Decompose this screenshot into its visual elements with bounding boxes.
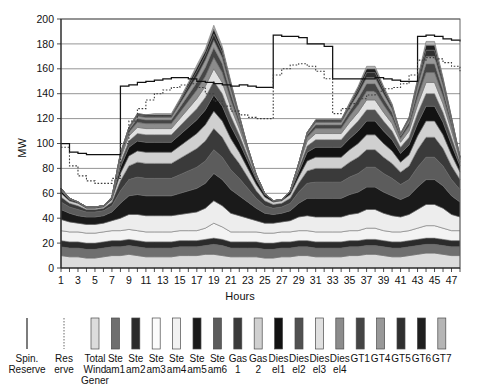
legend-item: Gas2 bbox=[249, 318, 267, 375]
legend-color-swatch bbox=[397, 318, 405, 349]
legend-label: GT5 bbox=[391, 353, 411, 364]
legend-color-swatch bbox=[438, 318, 446, 349]
legend-item: Steam1 bbox=[106, 318, 126, 375]
x-tick-label: 29 bbox=[293, 274, 305, 286]
legend-color-swatch bbox=[193, 318, 201, 349]
x-tick-label: 13 bbox=[157, 274, 169, 286]
y-tick-label: 140 bbox=[36, 87, 54, 99]
legend-item: Diesel1 bbox=[269, 318, 289, 375]
legend-item: Steam6 bbox=[208, 318, 228, 375]
legend-label: Ste bbox=[189, 353, 204, 364]
y-tick-label: 200 bbox=[36, 13, 54, 25]
legend-color-swatch bbox=[132, 318, 140, 349]
legend-label: Dies bbox=[330, 353, 350, 364]
legend-label: Dies bbox=[289, 353, 309, 364]
x-tick-label: 45 bbox=[429, 274, 441, 286]
x-tick-label: 43 bbox=[412, 274, 424, 286]
x-tick-label: 33 bbox=[327, 274, 339, 286]
legend-label: am3 bbox=[146, 364, 166, 375]
legend-color-swatch bbox=[173, 318, 181, 349]
legend-item: Steam3 bbox=[146, 318, 166, 375]
legend-label: Wind bbox=[84, 364, 107, 375]
x-axis-ticks: 1357911131517192123252729313335373941434… bbox=[58, 268, 460, 286]
legend-item: Spin.Reserve bbox=[8, 318, 46, 375]
legend-label: Dies bbox=[309, 353, 329, 364]
legend-label: el3 bbox=[313, 364, 327, 375]
x-tick-label: 23 bbox=[242, 274, 254, 286]
legend-item: Reserve bbox=[54, 318, 74, 375]
x-tick-label: 35 bbox=[344, 274, 356, 286]
legend-label: erve bbox=[54, 364, 74, 375]
legend-item: Diesel4 bbox=[330, 318, 350, 375]
legend-label: 2 bbox=[255, 364, 261, 375]
y-tick-label: 180 bbox=[36, 38, 54, 50]
x-tick-label: 37 bbox=[361, 274, 373, 286]
y-tick-label: 60 bbox=[42, 187, 54, 199]
x-tick-label: 25 bbox=[259, 274, 271, 286]
stacked-area-chart-figure: 020406080100120140160180200 135791113151… bbox=[0, 0, 481, 392]
legend-label: el4 bbox=[333, 364, 347, 375]
legend-color-swatch bbox=[213, 318, 221, 349]
legend-item: GT6 bbox=[412, 318, 432, 364]
y-tick-label: 120 bbox=[36, 112, 54, 124]
legend-label: am6 bbox=[208, 364, 228, 375]
legend-label: Spin. bbox=[16, 353, 39, 364]
y-tick-label: 40 bbox=[42, 212, 54, 224]
legend-label: GT7 bbox=[432, 353, 452, 364]
legend-color-swatch bbox=[417, 318, 425, 349]
legend-item: Steam2 bbox=[126, 318, 146, 375]
legend-label: Total bbox=[84, 353, 105, 364]
legend-color-swatch bbox=[234, 318, 242, 349]
x-tick-label: 15 bbox=[174, 274, 186, 286]
legend-color-swatch bbox=[152, 318, 160, 349]
legend-label: am5 bbox=[187, 364, 207, 375]
chart-legend: Spin.ReserveReserveTotalWindGenerSteam1S… bbox=[8, 318, 452, 386]
x-tick-label: 21 bbox=[225, 274, 237, 286]
x-tick-label: 1 bbox=[58, 274, 64, 286]
y-tick-label: 0 bbox=[48, 262, 54, 274]
legend-item: GT5 bbox=[391, 318, 411, 364]
legend-color-swatch bbox=[111, 318, 119, 349]
legend-label: GT6 bbox=[412, 353, 432, 364]
x-tick-label: 39 bbox=[378, 274, 390, 286]
x-tick-label: 11 bbox=[140, 274, 151, 286]
y-tick-label: 160 bbox=[36, 62, 54, 74]
legend-color-swatch bbox=[315, 318, 323, 349]
legend-item: GT4 bbox=[371, 318, 391, 364]
legend-label: Gener bbox=[81, 375, 109, 386]
x-tick-label: 17 bbox=[191, 274, 203, 286]
x-tick-label: 31 bbox=[310, 274, 322, 286]
legend-label: el2 bbox=[292, 364, 306, 375]
legend-label: Ste bbox=[149, 353, 164, 364]
legend-label: GT4 bbox=[371, 353, 391, 364]
legend-item: TotalWindGener bbox=[81, 318, 109, 386]
legend-color-swatch bbox=[254, 318, 262, 349]
legend-item: Steam4 bbox=[167, 318, 187, 375]
y-tick-label: 80 bbox=[42, 162, 54, 174]
y-axis-label: MW bbox=[16, 138, 28, 158]
legend-item: Gas1 bbox=[229, 318, 247, 375]
legend-color-swatch bbox=[336, 318, 344, 349]
legend-label: am1 bbox=[106, 364, 126, 375]
legend-item: Diesel2 bbox=[289, 318, 309, 375]
x-tick-label: 5 bbox=[92, 274, 98, 286]
legend-label: Ste bbox=[169, 353, 184, 364]
y-tick-label: 100 bbox=[36, 137, 54, 149]
legend-item: GT7 bbox=[432, 318, 452, 364]
legend-label: GT1 bbox=[350, 353, 370, 364]
x-tick-label: 47 bbox=[446, 274, 458, 286]
legend-label: am2 bbox=[126, 364, 146, 375]
x-tick-label: 41 bbox=[395, 274, 407, 286]
legend-color-swatch bbox=[91, 318, 99, 349]
legend-label: Gas bbox=[249, 353, 267, 364]
x-axis-label: Hours bbox=[225, 290, 255, 302]
legend-color-swatch bbox=[275, 318, 283, 349]
legend-color-swatch bbox=[356, 318, 364, 349]
legend-label: Ste bbox=[108, 353, 123, 364]
x-tick-label: 19 bbox=[208, 274, 220, 286]
legend-label: am4 bbox=[167, 364, 187, 375]
legend-label: Ste bbox=[210, 353, 225, 364]
legend-color-swatch bbox=[377, 318, 385, 349]
x-tick-label: 3 bbox=[75, 274, 81, 286]
legend-label: Dies bbox=[269, 353, 289, 364]
